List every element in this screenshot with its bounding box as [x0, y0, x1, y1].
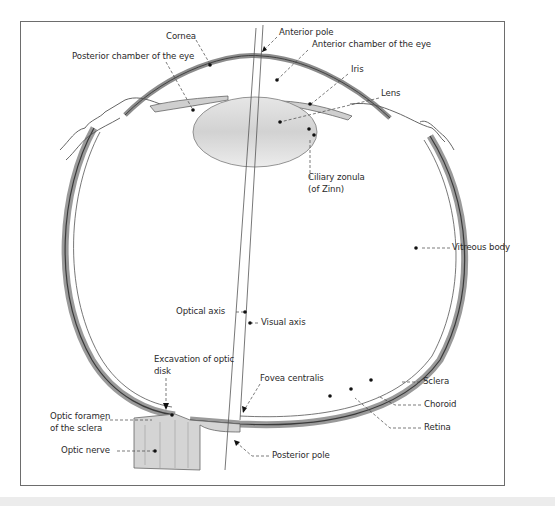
optical-axis-line [225, 28, 256, 470]
label-cornea: Cornea [166, 31, 196, 42]
label-optic-nerve: Optic nerve [61, 445, 110, 456]
label-optic-foramen-1: Optic foramen [50, 411, 110, 422]
label-iris: Iris [351, 64, 364, 75]
label-anterior-pole: Anterior pole [279, 27, 334, 38]
label-optical-axis: Optical axis [176, 306, 225, 317]
label-vitreous-body: Vitreous body [452, 242, 510, 253]
optic-nerve-shape [134, 414, 240, 470]
label-ciliary-zonula-1: Ciliary zonula [308, 172, 365, 183]
label-retina: Retina [424, 422, 451, 433]
label-sclera: Sclera [423, 376, 449, 387]
label-posterior-pole: Posterior pole [272, 450, 330, 461]
label-excavation-1: Excavation of optic [154, 354, 234, 365]
label-lens: Lens [381, 88, 400, 99]
label-excavation-2: disk [154, 366, 171, 377]
label-visual-axis: Visual axis [261, 317, 306, 328]
visual-axis-line [240, 25, 263, 420]
label-ciliary-zonula-2: (of Zinn) [308, 184, 344, 195]
label-fovea-centralis: Fovea centralis [260, 373, 324, 384]
label-posterior-chamber: Posterior chamber of the eye [72, 51, 194, 62]
label-anterior-chamber: Anterior chamber of the eye [312, 39, 431, 50]
label-choroid: Choroid [424, 399, 456, 410]
label-optic-foramen-2: of the sclera [50, 423, 102, 434]
